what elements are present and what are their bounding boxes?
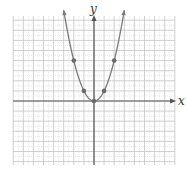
y-axis-label: y xyxy=(89,2,97,16)
axes xyxy=(13,15,176,165)
data-point xyxy=(112,58,117,63)
data-point xyxy=(102,89,107,94)
curve-arrow-icon xyxy=(121,10,125,15)
parabola-chart: x y xyxy=(0,0,187,171)
x-axis-label: x xyxy=(178,94,185,108)
data-point xyxy=(72,58,77,63)
data-point xyxy=(92,99,97,104)
data-point xyxy=(82,89,87,94)
curve-arrow-icon xyxy=(62,10,66,15)
